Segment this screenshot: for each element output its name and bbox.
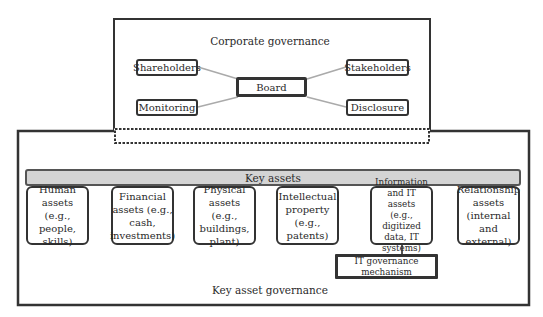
- asset-card-information-it: Information and IT assets (e.g., digitiz…: [370, 186, 433, 245]
- key-asset-governance-frame: [18, 131, 529, 305]
- asset-card-relationship: Relationship assets (internal and extern…: [457, 186, 520, 245]
- corporate-governance-title: Corporate governance: [190, 35, 350, 47]
- disclosure-node: Disclosure: [346, 99, 409, 116]
- stakeholders-node: Stakeholders: [346, 59, 409, 76]
- diagram-lines: [0, 0, 543, 317]
- asset-card-human: Human assets (e.g., people, skills): [26, 186, 89, 245]
- monitoring-node: Monitoring: [136, 99, 198, 116]
- dashed-overlap-region: [115, 129, 429, 143]
- asset-card-intellectual: Intellectual property (e.g., patents): [276, 186, 339, 245]
- key-assets-bar: Key assets: [25, 169, 521, 186]
- asset-card-financial: Financial assets (e.g., cash, investment…: [111, 186, 174, 245]
- it-governance-mechanism: IT governance mechanism: [335, 254, 438, 279]
- board-node: Board: [236, 77, 307, 97]
- key-asset-governance-title: Key asset governance: [190, 284, 350, 296]
- shareholders-node: Shareholders: [136, 59, 198, 76]
- asset-card-physical: Physical assets (e.g., buildings, plant): [193, 186, 256, 245]
